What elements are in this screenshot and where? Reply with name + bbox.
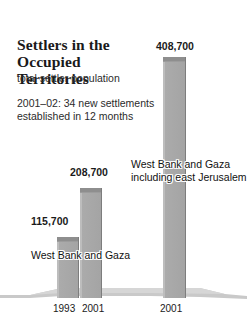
bar-cap [163, 57, 185, 62]
axis-tick-label-2001-b: 2001 [160, 303, 182, 314]
axis-tick-label-2001-a: 2001 [82, 303, 104, 314]
bar-1993 [57, 237, 79, 298]
chart-note-line-1: 2001–02: 34 new settlements [17, 97, 177, 110]
annotation-including-east-jerusalem: West Bank and Gaza including east Jerusa… [131, 158, 247, 183]
chart-subtitle: total settler population [17, 72, 167, 84]
annotation-west-bank-and-gaza: West Bank and Gaza [31, 249, 130, 262]
annotation-line-2: including east Jerusalem [131, 171, 247, 184]
annotation-line-1: West Bank and Gaza [131, 158, 247, 171]
bar-cap [80, 188, 101, 193]
value-label-2001-west-bank-gaza: 208,700 [70, 166, 108, 178]
value-label-2001-east-jerusalem: 408,700 [156, 40, 194, 52]
bar-cap [57, 237, 78, 242]
chart-title-line-1: Settlers in the [17, 36, 110, 53]
infographic-chart: Settlers in the Occupied Territories tot… [0, 0, 247, 329]
value-label-1993: 115,700 [31, 215, 68, 227]
ground-shape [0, 286, 247, 302]
chart-note-line-2: established in 12 months [17, 110, 177, 123]
chart-note: 2001–02: 34 new settlements established … [17, 97, 177, 122]
bar-2001-west-bank-gaza [80, 188, 102, 298]
axis-tick-label-1993: 1993 [53, 303, 75, 314]
